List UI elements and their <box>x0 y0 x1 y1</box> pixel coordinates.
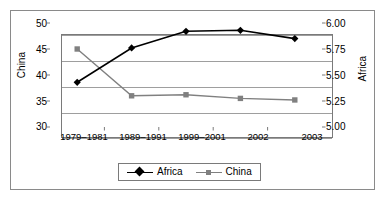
right-tick-575: 5.75 <box>326 45 345 55</box>
gridline-50 <box>62 35 332 36</box>
right-tick-600: 6.00 <box>326 19 345 29</box>
left-tick-40: 40 <box>36 71 47 81</box>
legend-marker-diamond-icon <box>127 168 153 177</box>
left-tick-35: 35 <box>36 97 47 107</box>
x-tick-1: 1989–1991 <box>119 131 167 142</box>
left-axis-title: China <box>16 52 27 78</box>
chart-legend: Africa China <box>118 163 261 181</box>
left-tick-50: 50 <box>36 19 47 29</box>
plot-area <box>61 34 333 138</box>
legend-marker-square-icon <box>196 168 222 177</box>
legend-label-china: China <box>226 166 252 178</box>
gridline-35 <box>62 113 332 114</box>
gridline-40 <box>62 87 332 88</box>
right-tick-550: 5.50 <box>326 71 345 81</box>
legend-item-china[interactable]: China <box>196 166 252 178</box>
right-tick-525: 5.25 <box>326 97 345 107</box>
left-tick-45: 45 <box>36 45 47 55</box>
right-axis-ticks: 6.00 5.75 5.50 5.25 5.00 <box>326 0 356 201</box>
x-tick-0: 1979–1981 <box>60 131 108 142</box>
x-axis-ticks: 1979–1981 1989–1991 1999–2001 2002 2003 <box>50 131 322 145</box>
x-tick-3: 2002 <box>247 131 268 142</box>
x-tick-4: 2003 <box>301 131 322 142</box>
legend-label-africa: Africa <box>157 166 183 178</box>
right-tick-500: 5.00 <box>326 122 345 132</box>
gridline-45 <box>62 61 332 62</box>
legend-item-africa[interactable]: Africa <box>127 166 183 178</box>
left-tick-30: 30 <box>36 122 47 132</box>
x-tick-2: 1999–2001 <box>178 131 226 142</box>
left-axis-ticks: 50 45 40 35 30 <box>22 0 47 201</box>
right-axis-title: Africa <box>357 56 368 82</box>
